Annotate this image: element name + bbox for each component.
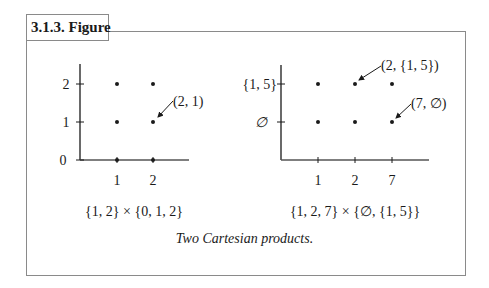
right-y-tick-set: {1, 5}	[243, 77, 277, 92]
right-data-points	[316, 82, 394, 124]
figure-caption: Two Cartesian products.	[0, 231, 489, 247]
left-y-tick-1: 1	[63, 115, 70, 130]
right-annotation-arrow-2	[396, 104, 411, 118]
left-set-label: {1, 2} × {0, 1, 2}	[85, 204, 183, 219]
left-y-tick-2: 2	[63, 77, 70, 92]
right-x-tick-2: 2	[352, 173, 359, 188]
left-annotation-label: (2, 1)	[173, 94, 204, 110]
left-annotation-arrow	[158, 101, 173, 117]
left-y-tick-0: 0	[60, 153, 67, 168]
right-y-tick-empty: ∅	[255, 115, 268, 130]
right-plot: {1, 5} ∅ 1 2 7 (2, {1, 5}) (7, ∅) {1, 2,…	[243, 58, 447, 219]
right-annotation-label-2: (7, ∅)	[411, 96, 447, 112]
left-data-points	[115, 82, 155, 162]
right-set-label: {1, 2, 7} × {∅, {1, 5}}	[290, 204, 420, 219]
right-x-tick-1: 1	[315, 173, 322, 188]
right-annotation-label-1: (2, {1, 5})	[381, 58, 439, 74]
figure-title: 3.1.3. Figure	[26, 14, 109, 41]
right-annotation-arrow-1	[359, 66, 381, 80]
right-x-tick-7: 7	[389, 173, 396, 188]
left-x-tick-1: 1	[114, 173, 121, 188]
left-plot: 2 1 0 1 2 (2, 1) {1, 2} × {0, 1, 2}	[60, 64, 204, 219]
left-x-tick-2: 2	[150, 173, 157, 188]
